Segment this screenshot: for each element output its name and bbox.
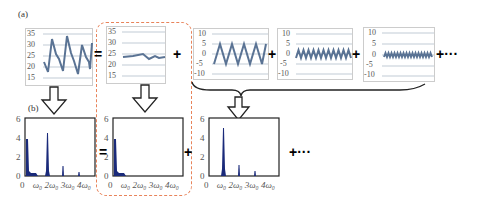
ellipsis-operator: +··· xyxy=(436,46,458,62)
down-arrow-icon xyxy=(131,84,161,114)
mean-spectrum-plot: 6 4 2 0 0 ω₀ 2ω₀ 3ω₀ 4ω₀ xyxy=(104,115,184,195)
xtick: 2ω₀ xyxy=(228,180,242,190)
xticks: 0 ω₀ 2ω₀ 3ω₀ 4ω₀ xyxy=(108,181,179,190)
original-signal-plot: 35 30 25 20 15 xyxy=(25,28,93,86)
xtick: 0 xyxy=(20,180,25,190)
plus-operator: + xyxy=(173,46,181,62)
plus-operator: + xyxy=(184,144,192,160)
down-arrow-icon xyxy=(40,86,70,116)
xtick: 0 xyxy=(204,180,209,190)
harmonics-grouping-brace xyxy=(190,80,430,102)
harmonic-2-curve xyxy=(278,29,352,79)
xtick: 0 xyxy=(108,180,113,190)
xtick: 3ω₀ xyxy=(61,180,75,190)
xtick: 4ω₀ xyxy=(165,180,179,190)
harmonics-spectrum-plot: 6 4 2 0 0 ω₀ 2ω₀ 3ω₀ 4ω₀ xyxy=(200,115,280,195)
equals-operator: = xyxy=(94,46,102,62)
original-signal-curve xyxy=(26,29,92,85)
xtick: 4ω₀ xyxy=(261,180,275,190)
xtick: ω₀ xyxy=(33,180,42,190)
panel-label-a: (a) xyxy=(18,9,28,19)
xtick: 4ω₀ xyxy=(77,180,91,190)
xtick: ω₀ xyxy=(217,180,226,190)
plus-operator: + xyxy=(352,46,360,62)
harmonic-3-plot: 10 5 0 -5 -10 xyxy=(363,27,435,82)
original-spectrum-plot: 6 4 2 0 0 ω₀ 2ω₀ 3ω₀ 4ω₀ xyxy=(16,115,96,195)
harmonic-2-plot: 10 5 0 -5 -10 xyxy=(277,28,353,80)
mean-component-plot: 35 30 25 20 15 xyxy=(106,26,166,84)
xticks: 0 ω₀ 2ω₀ 3ω₀ 4ω₀ xyxy=(204,181,275,190)
plus-operator: + xyxy=(268,46,276,62)
panel-label-b: (b) xyxy=(28,103,39,113)
xtick: 3ω₀ xyxy=(149,180,163,190)
ellipsis-operator: +··· xyxy=(289,144,311,160)
xtick: 3ω₀ xyxy=(245,180,259,190)
xtick: 2ω₀ xyxy=(132,180,146,190)
harmonic-3-curve xyxy=(364,28,434,81)
mean-component-curve xyxy=(107,27,165,83)
harmonic-1-curve xyxy=(194,29,268,79)
harmonic-1-plot: 10 5 0 -5 -10 xyxy=(193,28,269,80)
xticks: 0 ω₀ 2ω₀ 3ω₀ 4ω₀ xyxy=(20,181,91,190)
xtick: 2ω₀ xyxy=(44,180,58,190)
xtick: ω₀ xyxy=(121,180,130,190)
